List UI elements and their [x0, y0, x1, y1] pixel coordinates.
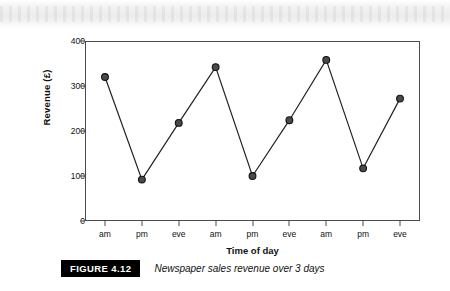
x-tick-mark [105, 221, 106, 226]
figure-caption-text: Newspaper sales revenue over 3 days [154, 263, 324, 274]
x-tick-mark [363, 221, 364, 226]
series-line [105, 60, 400, 180]
x-tick-label: pm [247, 229, 259, 239]
data-point-marker [397, 95, 404, 102]
figure-number-badge: FIGURE 4.12 [61, 260, 140, 277]
data-point-marker [249, 173, 256, 180]
x-axis-title: Time of day [85, 245, 420, 256]
y-axis-title: Revenue (£) [41, 23, 52, 173]
x-tick-mark [289, 221, 290, 226]
x-tick-label: am [320, 229, 332, 239]
data-point-marker [175, 120, 182, 127]
x-tick-label: eve [283, 229, 297, 239]
data-point-marker [286, 117, 293, 124]
data-point-marker [138, 176, 145, 183]
data-point-marker [212, 64, 219, 71]
chart-series-svg [85, 41, 420, 221]
series-markers [102, 57, 404, 184]
x-tick-mark [400, 221, 401, 226]
x-tick-label: am [210, 229, 222, 239]
figure-caption: FIGURE 4.12 Newspaper sales revenue over… [28, 258, 422, 278]
x-tick-mark [252, 221, 253, 226]
x-tick-label: eve [172, 229, 186, 239]
x-tick-mark [141, 221, 142, 226]
x-tick-label: am [99, 229, 111, 239]
x-tick-mark [215, 221, 216, 226]
x-tick-mark [178, 221, 179, 226]
x-tick-label: pm [357, 229, 369, 239]
x-tick-mark [326, 221, 327, 226]
data-point-marker [102, 74, 109, 81]
data-point-marker [360, 165, 367, 172]
x-tick-label: eve [393, 229, 407, 239]
line-chart: Revenue (£) 0100200300400 ampmeveampmeve… [28, 30, 422, 248]
figure-page: Revenue (£) 0100200300400 ampmeveampmeve… [0, 0, 450, 291]
x-tick-label: pm [136, 229, 148, 239]
data-point-marker [323, 57, 330, 64]
